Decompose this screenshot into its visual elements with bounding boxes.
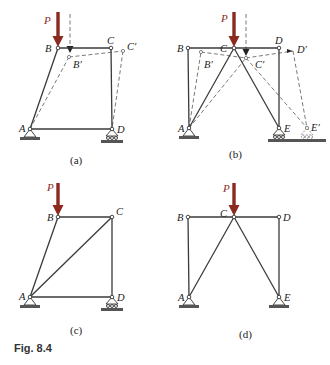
label-a: A <box>177 123 185 134</box>
joint-d <box>277 46 281 50</box>
label-e-prime: E′ <box>310 122 320 133</box>
joint-e-prime <box>305 126 308 129</box>
load-arrow-p-a <box>53 12 64 47</box>
load-label: P <box>220 12 228 24</box>
label-c: C <box>116 206 124 217</box>
label-b-prime: B′ <box>73 59 82 70</box>
load-arrow-p-d <box>229 183 240 216</box>
truss-members-a <box>30 48 112 129</box>
joint-c <box>232 46 236 50</box>
label-b: B <box>177 43 184 54</box>
joint-b <box>186 46 190 50</box>
load-label: P <box>222 182 230 194</box>
load-label: P <box>46 181 54 193</box>
deformed-shape-a <box>30 14 123 129</box>
joint-a <box>28 127 32 131</box>
truss-members-b <box>188 48 279 128</box>
joint-e <box>277 126 281 130</box>
truss-members-d <box>188 217 279 297</box>
label-e: E <box>283 292 291 303</box>
label-b: B <box>177 212 184 223</box>
panel-b: P B C D D′ B′ C′ A E <box>177 12 326 161</box>
label-c-prime: C′ <box>255 59 265 70</box>
joint-c-prime <box>121 49 124 52</box>
displacement-arrow-head-icon <box>243 49 250 56</box>
joint-d <box>277 215 281 219</box>
label-c-prime: C′ <box>127 41 137 52</box>
panel-a: P B C C′ B′ A D (a) <box>18 12 137 167</box>
panel-c: P B C A D (c) <box>18 181 125 337</box>
joint-b-prime <box>199 50 202 53</box>
joint-b <box>56 46 60 50</box>
joint-a <box>28 295 32 299</box>
label-b-prime: B′ <box>204 59 213 70</box>
label-d: D <box>116 292 125 303</box>
truss-members-c <box>30 217 112 297</box>
joint-b <box>186 215 190 219</box>
load-arrow-p-c <box>53 183 64 216</box>
label-c: C <box>220 208 228 219</box>
load-arrow-p-b <box>229 12 240 47</box>
label-e: E <box>283 123 291 134</box>
label-a: A <box>18 123 26 134</box>
panel-caption-a: (a) <box>70 154 83 167</box>
label-c: C <box>107 35 115 46</box>
joint-b <box>56 215 60 219</box>
joint-e <box>277 295 281 299</box>
panel-d: P B C D A E (d) <box>177 182 291 341</box>
joint-c <box>110 215 114 219</box>
joint-b-prime <box>67 55 70 58</box>
label-d: D <box>282 212 291 223</box>
joint-c <box>232 215 236 219</box>
label-c: C <box>220 43 228 54</box>
panel-caption-b: (b) <box>229 148 242 161</box>
figure-caption: Fig. 8.4 <box>14 342 53 354</box>
load-label: P <box>43 14 51 26</box>
label-d: D <box>274 35 283 46</box>
joint-d <box>110 127 114 131</box>
panel-caption-d: (d) <box>239 328 252 341</box>
label-b: B <box>47 212 54 223</box>
figure-canvas: P B C C′ B′ A D (a) <box>0 0 330 365</box>
label-b: B <box>45 43 52 54</box>
displacement-arrow-head-icon <box>67 46 74 53</box>
ground-line <box>268 139 326 142</box>
joint-c-prime <box>244 56 247 59</box>
joint-c <box>109 46 113 50</box>
displacement-arrow-head-icon <box>287 49 293 53</box>
label-a: A <box>18 291 26 302</box>
label-d-prime: D′ <box>296 44 308 55</box>
label-a: A <box>177 292 185 303</box>
panel-caption-c: (c) <box>70 324 83 337</box>
deformed-shape-b <box>189 14 307 128</box>
joint-a <box>187 295 191 299</box>
joint-d <box>110 295 114 299</box>
label-d: D <box>116 124 125 135</box>
joint-a <box>187 126 191 130</box>
